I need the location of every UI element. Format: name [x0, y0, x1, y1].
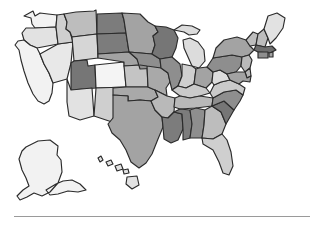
state-WY[interactable]: [72, 34, 98, 61]
state-TN[interactable]: [174, 96, 213, 109]
state-RI[interactable]: [269, 52, 273, 57]
state-ND[interactable]: [97, 13, 126, 34]
state-UT[interactable]: [71, 60, 96, 90]
state-FL[interactable]: [202, 134, 233, 175]
state-WA[interactable]: [24, 11, 57, 28]
state-PA[interactable]: [207, 55, 242, 74]
us-states-choropleth[interactable]: [0, 0, 322, 229]
footer-divider-rule: [14, 216, 310, 217]
choropleth-map-figure: [0, 0, 322, 229]
state-CO[interactable]: [95, 62, 126, 88]
state-AK[interactable]: [17, 140, 86, 200]
state-CT[interactable]: [258, 52, 268, 58]
state-SD[interactable]: [97, 33, 129, 54]
state-MI[interactable]: [174, 25, 205, 68]
